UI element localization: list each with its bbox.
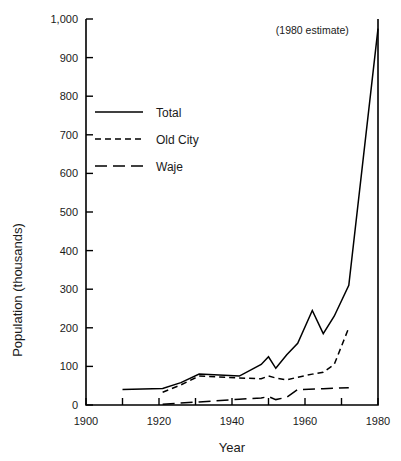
legend-label-old-city: Old City bbox=[156, 133, 199, 147]
y-tick-label: 600 bbox=[60, 167, 78, 179]
y-tick-label: 800 bbox=[60, 90, 78, 102]
y-tick-label: 400 bbox=[60, 245, 78, 257]
chart-background bbox=[0, 0, 401, 461]
annotations: (1980 estimate) bbox=[276, 24, 349, 36]
x-tick-label: 1920 bbox=[147, 415, 171, 427]
y-tick-label: 200 bbox=[60, 322, 78, 334]
legend-label-waje: Waje bbox=[156, 160, 183, 174]
chart-annotation: (1980 estimate) bbox=[276, 24, 349, 36]
y-tick-label: 1,000 bbox=[50, 13, 78, 25]
y-tick-label: 100 bbox=[60, 360, 78, 372]
legend-label-total: Total bbox=[156, 106, 181, 120]
y-tick-label: 700 bbox=[60, 129, 78, 141]
y-tick-label: 0 bbox=[72, 399, 78, 411]
x-tick-label: 1960 bbox=[293, 415, 317, 427]
y-axis-title: Population (thousands) bbox=[10, 223, 25, 357]
x-tick-label: 1980 bbox=[366, 415, 390, 427]
y-tick-label: 900 bbox=[60, 52, 78, 64]
population-line-chart: 01002003004005006007008009001,000 190019… bbox=[0, 0, 401, 461]
x-tick-label: 1900 bbox=[74, 415, 98, 427]
y-tick-label: 500 bbox=[60, 206, 78, 218]
x-axis-title: Year bbox=[219, 440, 246, 455]
y-tick-label: 300 bbox=[60, 283, 78, 295]
x-tick-label: 1940 bbox=[220, 415, 244, 427]
